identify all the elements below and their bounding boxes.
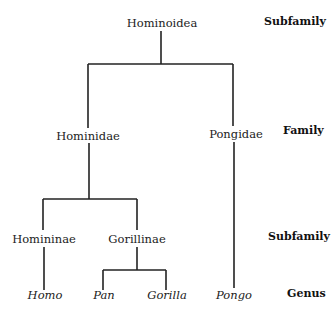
node-pan: Pan bbox=[93, 288, 114, 302]
node-gorillinae: Gorillinae bbox=[108, 232, 165, 246]
rank-label-genus: Genus bbox=[287, 287, 326, 301]
rank-label-family: Family bbox=[283, 124, 324, 138]
node-pongidae: Pongidae bbox=[209, 127, 263, 141]
node-hominoidea: Hominoidea bbox=[127, 16, 198, 30]
node-homininae: Homininae bbox=[12, 232, 76, 246]
rank-label-top: Subfamily bbox=[264, 15, 326, 29]
tree-lines bbox=[0, 0, 336, 316]
rank-label-subfamily: Subfamily bbox=[268, 230, 330, 244]
node-homo: Homo bbox=[28, 288, 63, 302]
node-gorilla: Gorilla bbox=[147, 288, 187, 302]
node-hominidae: Hominidae bbox=[56, 129, 120, 143]
node-pongo: Pongo bbox=[216, 288, 252, 302]
